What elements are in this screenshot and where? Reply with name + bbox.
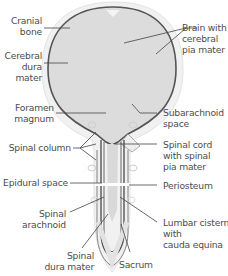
label-lumbar-cistern-with-cauda-equina: Lumbar cistern with cauda equina [163, 217, 228, 250]
label-line: Sacrum [119, 259, 153, 270]
label-line: Subarachnoid [163, 107, 224, 118]
label-brain-with-cerebral-pia-mater: Brain with cerebral pia mater [182, 22, 227, 55]
label-line: Spinal cord [163, 139, 212, 150]
label-subarachnoid-space: Subarachnoid space [163, 107, 224, 129]
label-line: cerebral [182, 33, 227, 44]
label-line: bone [11, 26, 42, 37]
label-spinal-arachnoid: Spinal arachnoid [22, 208, 66, 230]
label-line: with [163, 228, 228, 239]
label-line: magnum [14, 113, 54, 124]
label-line: Spinal [22, 208, 66, 219]
label-line: dura [5, 61, 43, 72]
label-line: pia mater [182, 44, 227, 55]
label-cerebral-dura-mater: Cerebral dura mater [5, 50, 43, 83]
label-line: cauda equina [163, 239, 228, 250]
label-line: space [163, 118, 224, 129]
label-epidural-space: Epidural space [3, 177, 68, 188]
label-line: dura mater [44, 261, 94, 272]
label-line: pia mater [163, 161, 212, 172]
label-spinal-cord-with-spinal-pia-mater: Spinal cord with spinal pia mater [163, 139, 212, 172]
label-sacrum: Sacrum [119, 259, 153, 270]
label-line: Cerebral [5, 50, 43, 61]
label-spinal-dura-mater: Spinal dura mater [44, 250, 94, 272]
label-line: mater [5, 72, 43, 83]
label-line: Epidural space [3, 177, 68, 188]
label-line: Cranial [11, 15, 42, 26]
label-periosteum: Periosteum [163, 180, 213, 191]
label-line: with spinal [163, 150, 212, 161]
label-line: Spinal [44, 250, 94, 261]
label-cranial-bone: Cranial bone [11, 15, 42, 37]
vertebra-gap [95, 183, 130, 186]
label-line: Spinal column [9, 142, 71, 153]
label-spinal-column: Spinal column [9, 142, 71, 153]
label-line: Brain with [182, 22, 227, 33]
label-line: Foramen [14, 102, 54, 113]
label-foramen-magnum: Foramen magnum [14, 102, 54, 124]
label-line: Periosteum [163, 180, 213, 191]
label-line: arachnoid [22, 219, 66, 230]
label-line: Lumbar cistern [163, 217, 228, 228]
